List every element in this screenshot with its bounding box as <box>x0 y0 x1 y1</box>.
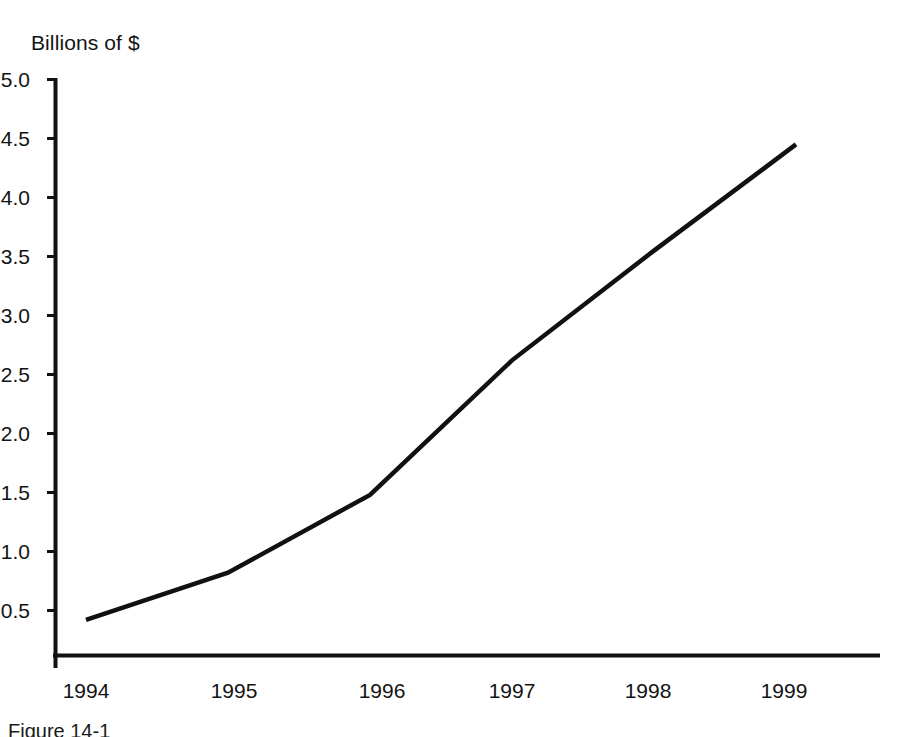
y-tick-label-4-0: 4.0 <box>0 187 30 208</box>
y-tick-label-1-5: 1.5 <box>0 482 30 503</box>
x-tick-label-1994: 1994 <box>44 680 128 701</box>
x-tick-label-1997: 1997 <box>470 680 554 701</box>
y-tick-label-0-5: 0.5 <box>0 600 30 621</box>
x-tick-label-1998: 1998 <box>606 680 690 701</box>
data-series-line <box>86 144 796 620</box>
y-tick-label-3-0: 3.0 <box>0 305 30 326</box>
y-tick-label-2-0: 2.0 <box>0 423 30 444</box>
y-tick-label-2-5: 2.5 <box>0 364 30 385</box>
y-tick-label-5-0: 5.0 <box>0 69 30 90</box>
figure-caption: Figure 14-1 <box>8 719 110 737</box>
x-tick-label-1999: 1999 <box>742 680 826 701</box>
axes-group <box>53 78 880 668</box>
figure-container: Billions of $ 5.0 4.5 4.0 3.5 3.0 2.5 2.… <box>0 0 910 737</box>
line-chart-plot <box>0 0 910 737</box>
y-tick-label-1-0: 1.0 <box>0 541 30 562</box>
x-tick-label-1996: 1996 <box>340 680 424 701</box>
y-tick-label-4-5: 4.5 <box>0 128 30 149</box>
x-tick-label-1995: 1995 <box>192 680 276 701</box>
y-tick-label-3-5: 3.5 <box>0 246 30 267</box>
